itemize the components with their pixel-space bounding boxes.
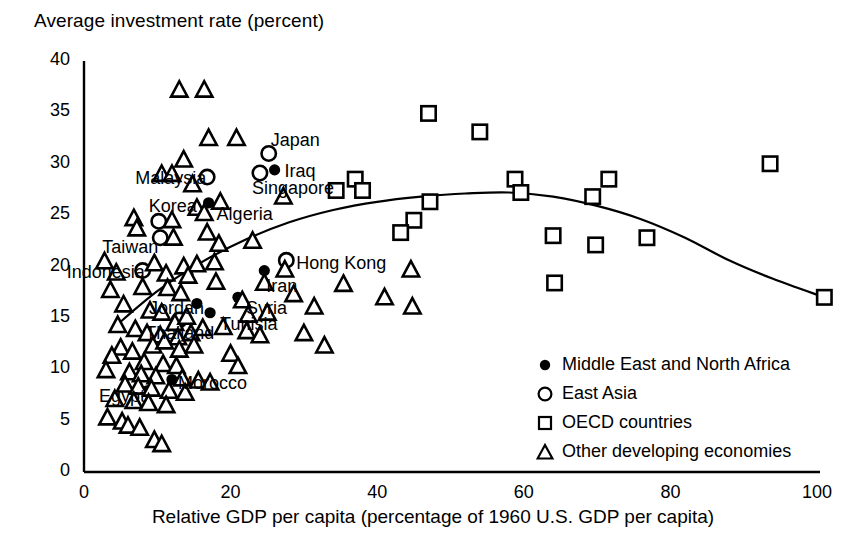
x-tick-label: 100 [787,482,847,503]
y-tick-label: 35 [30,100,70,121]
x-tick-label: 0 [54,482,114,503]
data-point-open-square [588,238,602,252]
data-point-open-square [586,189,600,203]
y-tick-label: 40 [30,49,70,70]
data-point-open-triangle [306,298,322,313]
data-point-open-triangle [316,337,332,352]
point-label-indonesia: Indonesia [67,262,145,283]
y-tick-label: 25 [30,203,70,224]
legend-label-oecd: OECD countries [562,412,692,433]
open-triangle-icon [536,442,562,462]
data-point-open-triangle [196,81,212,96]
point-label-taiwan: Taiwan [102,237,158,258]
y-tick-label: 20 [30,255,70,276]
chart-legend: Middle East and North Africa East Asia O… [536,350,791,466]
point-label-korea: Korea [149,196,197,217]
data-point-open-triangle [171,81,187,96]
point-label-tunisia: Tunisia [220,314,277,335]
point-label-jordan: Jordan [149,298,204,319]
data-point-open-square [514,185,528,199]
open-circle-icon [536,384,562,404]
x-tick-label: 40 [347,482,407,503]
investment-rate-scatter-chart: Average investment rate (percent) 051015… [0,0,866,551]
data-point-open-square [817,290,831,304]
legend-item-oecd: OECD countries [536,408,791,437]
point-label-hong-kong: Hong Kong [296,253,386,274]
x-axis-label: Relative GDP per capita (percentage of 1… [0,506,866,528]
data-point-open-square [473,125,487,139]
data-point-open-square [423,195,437,209]
legend-label-other-developing: Other developing economies [562,441,791,462]
point-label-singapore: Singapore [252,178,334,199]
legend-label-mena: Middle East and North Africa [562,354,790,375]
y-tick-label: 5 [30,409,70,430]
point-label-egypt: Egypt [99,386,145,407]
data-point-open-square [355,183,369,197]
y-tick-label: 10 [30,357,70,378]
data-point-open-triangle [208,273,224,288]
data-point-filled-circle [269,164,280,175]
open-square-icon [536,413,562,433]
data-point-open-square [546,228,560,242]
data-point-open-square [393,225,407,239]
data-point-filled-circle [204,307,215,318]
data-point-open-square [547,276,561,290]
data-point-open-triangle [296,325,312,340]
legend-item-other-developing: Other developing economies [536,437,791,466]
legend-item-east-asia: East Asia [536,379,791,408]
y-tick-label: 30 [30,152,70,173]
point-label-japan: Japan [271,130,320,151]
data-point-open-triangle [102,282,118,297]
data-point-open-square [421,106,435,120]
filled-circle-icon [536,355,562,375]
x-tick-label: 80 [640,482,700,503]
y-tick-label: 0 [30,460,70,481]
legend-label-east-asia: East Asia [562,383,637,404]
point-label-iran: Iran [266,276,297,297]
point-label-morocco: Morocco [178,373,247,394]
point-label-malaysia: Malaysia [135,168,206,189]
data-point-open-triangle [189,256,205,271]
data-point-open-triangle [404,298,420,313]
data-point-open-triangle [335,275,351,290]
point-label-thailand: Thailand [145,323,214,344]
x-tick-label: 60 [494,482,554,503]
data-point-open-triangle [99,409,115,424]
x-tick-label: 20 [201,482,261,503]
data-point-open-square [640,231,654,245]
point-label-algeria: Algeria [217,204,273,225]
data-point-open-triangle [206,254,222,269]
data-point-open-triangle [403,261,419,276]
data-point-open-triangle [376,289,392,304]
y-tick-label: 15 [30,306,70,327]
data-point-open-triangle [200,130,216,145]
data-point-open-square [602,172,616,186]
legend-item-mena: Middle East and North Africa [536,350,791,379]
data-point-open-triangle [175,151,191,166]
data-point-open-square [763,157,777,171]
data-point-open-triangle [228,130,244,145]
data-point-open-triangle [199,224,215,239]
